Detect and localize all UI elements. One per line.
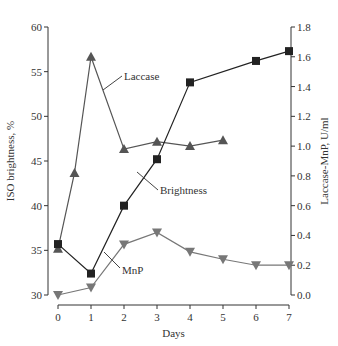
- series-label-laccase: Laccase: [124, 70, 160, 82]
- triangle-down-marker: [152, 228, 162, 237]
- leader-line: [104, 252, 120, 268]
- square-marker: [120, 202, 128, 210]
- right-tick-label: 0.4: [297, 229, 311, 241]
- leader-line: [103, 76, 122, 90]
- square-marker: [252, 57, 260, 65]
- triangle-up-marker: [152, 137, 162, 146]
- triangle-down-marker: [53, 291, 63, 300]
- square-marker: [87, 270, 95, 278]
- left-tick-label: 50: [31, 110, 43, 122]
- leader-line: [137, 172, 158, 190]
- left-tick-label: 35: [31, 244, 43, 256]
- right-tick-label: 1.8: [297, 21, 311, 33]
- left-tick-label: 55: [31, 66, 43, 78]
- right-tick-label: 1.4: [297, 81, 311, 93]
- chart: 30354045505560ISO brightness, %0.00.20.4…: [0, 0, 338, 346]
- right-tick-label: 0.0: [297, 289, 311, 301]
- x-axis-label: Days: [162, 327, 185, 339]
- square-marker: [153, 155, 161, 163]
- square-marker: [54, 240, 62, 248]
- right-tick-label: 0.8: [297, 170, 311, 182]
- x-tick-label: 5: [220, 311, 226, 323]
- x-tick-label: 7: [286, 311, 292, 323]
- right-tick-label: 1.2: [297, 110, 311, 122]
- series-mnp: [53, 228, 294, 300]
- series-brightness: [54, 47, 293, 277]
- y2-axis-label: Laccase-MnP, U/ml: [318, 117, 330, 204]
- left-tick-label: 30: [31, 289, 43, 301]
- x-tick-label: 1: [88, 311, 94, 323]
- labels-layer: LaccaseBrightnessMnP: [103, 70, 207, 276]
- x-tick-label: 6: [253, 311, 259, 323]
- series-layer: [53, 47, 294, 300]
- left-tick-label: 60: [31, 21, 43, 33]
- left-tick-label: 45: [31, 155, 43, 167]
- square-marker: [186, 78, 194, 86]
- x-tick-label: 2: [121, 311, 127, 323]
- right-tick-label: 0.6: [297, 200, 311, 212]
- right-tick-label: 1.0: [297, 140, 311, 152]
- x-tick-label: 4: [187, 311, 193, 323]
- square-marker: [285, 47, 293, 55]
- axes: 30354045505560ISO brightness, %0.00.20.4…: [4, 21, 330, 339]
- right-tick-label: 1.6: [297, 51, 311, 63]
- series-label-mnp: MnP: [122, 264, 143, 276]
- series-line: [58, 51, 289, 273]
- triangle-up-marker: [86, 52, 96, 61]
- right-tick-label: 0.2: [297, 259, 311, 271]
- triangle-up-marker: [218, 135, 228, 144]
- y-axis-label: ISO brightness, %: [4, 121, 16, 201]
- series-label-brightness: Brightness: [160, 184, 207, 196]
- series-line: [58, 57, 223, 249]
- x-tick-label: 0: [55, 311, 61, 323]
- x-tick-label: 3: [154, 311, 160, 323]
- left-tick-label: 40: [31, 200, 43, 212]
- triangle-up-marker: [70, 168, 80, 177]
